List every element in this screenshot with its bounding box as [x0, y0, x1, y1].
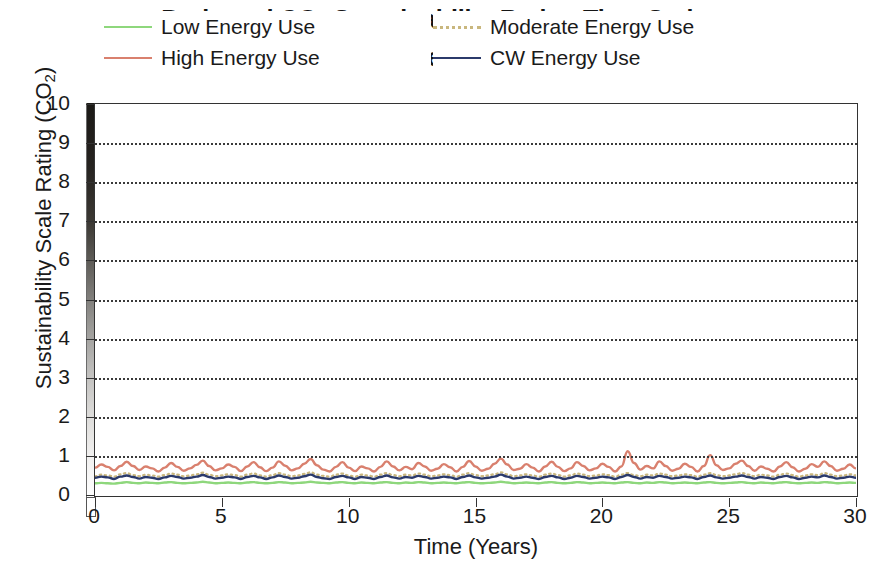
legend-swatch-icon: [433, 21, 481, 33]
x-tick-5: [222, 498, 223, 507]
y-tick-2: [86, 417, 95, 418]
x-tick-label-0: 0: [64, 505, 124, 526]
x-tick-10: [349, 498, 350, 507]
legend-label: CW Energy Use: [490, 47, 641, 68]
chart-legend: Low Energy UseModerate Energy UseHigh En…: [104, 11, 760, 73]
x-tick-0: [95, 498, 96, 507]
y-tick-8: [86, 182, 95, 183]
plot-inner: [95, 104, 857, 496]
x-tick-label-30: 30: [825, 505, 882, 526]
y-tick-label-0: 0: [28, 483, 70, 504]
gridline-y-2: [95, 417, 857, 419]
y-axis-title-post: ): [31, 67, 56, 74]
y-tick-0: [86, 495, 95, 496]
legend-swatch-icon: [433, 52, 481, 64]
x-tick-20: [602, 498, 603, 507]
x-tick-30: [856, 498, 857, 507]
legend-label: Moderate Energy Use: [490, 16, 694, 37]
legend-label: Low Energy Use: [161, 16, 315, 37]
y-tick-7: [86, 221, 95, 222]
series-line-low-energy-use: [95, 482, 856, 484]
x-axis-title: Time (Years): [94, 534, 858, 560]
y-tick-1: [86, 456, 95, 457]
legend-item-cw-energy-use[interactable]: CW Energy Use: [433, 42, 760, 73]
legend-swatch-icon: [104, 52, 152, 64]
plot-area: [94, 103, 858, 497]
y-tick-label-2: 2: [28, 405, 70, 426]
legend-line-sample: [433, 57, 481, 59]
y-tick-label-9: 9: [28, 131, 70, 152]
legend-swatch-icon: [104, 21, 152, 33]
legend-line-sample: [433, 26, 481, 29]
y-axis-title-subscript: 2: [41, 74, 58, 82]
legend-item-moderate-energy-use[interactable]: Moderate Energy Use: [433, 11, 760, 42]
x-tick-label-5: 5: [191, 505, 251, 526]
gridline-y-5: [95, 300, 857, 302]
legend-label: High Energy Use: [161, 47, 320, 68]
gridline-y-6: [95, 260, 857, 262]
y-tick-4: [86, 339, 95, 340]
y-tick-6: [86, 260, 95, 261]
y-tick-9: [86, 143, 95, 144]
y-tick-label-6: 6: [28, 248, 70, 269]
series-line-cw-energy-use: [95, 475, 856, 479]
series-line-high-energy-use: [95, 451, 856, 471]
legend-item-high-energy-use[interactable]: High Energy Use: [104, 42, 431, 73]
y-tick-10: [86, 104, 95, 105]
y-tick-label-3: 3: [28, 366, 70, 387]
y-tick-label-8: 8: [28, 170, 70, 191]
gridline-y-8: [95, 182, 857, 184]
chart-figure: Projected CO2 Sustainability Rating Time…: [0, 0, 882, 568]
legend-line-sample: [104, 26, 152, 28]
y-tick-label-10: 10: [28, 92, 70, 113]
y-tick-label-4: 4: [28, 327, 70, 348]
x-tick-25: [729, 498, 730, 507]
gridline-y-4: [95, 339, 857, 341]
gridline-y-7: [95, 221, 857, 223]
x-tick-label-20: 20: [571, 505, 631, 526]
y-tick-5: [86, 300, 95, 301]
y-tick-label-5: 5: [28, 288, 70, 309]
legend-item-low-energy-use[interactable]: Low Energy Use: [104, 11, 431, 42]
legend-line-sample: [104, 57, 152, 59]
gridline-y-1: [95, 456, 857, 458]
x-tick-label-25: 25: [698, 505, 758, 526]
x-tick-label-15: 15: [445, 505, 505, 526]
gridline-y-3: [95, 378, 857, 380]
gridline-y-9: [95, 143, 857, 145]
y-tick-label-1: 1: [28, 444, 70, 465]
y-tick-label-7: 7: [28, 209, 70, 230]
x-tick-15: [476, 498, 477, 507]
y-tick-3: [86, 378, 95, 379]
x-tick-label-10: 10: [318, 505, 378, 526]
